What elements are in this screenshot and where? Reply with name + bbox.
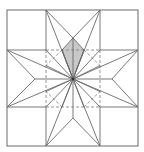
star-edge bbox=[73, 118, 100, 146]
star-crease-diagram bbox=[0, 0, 144, 152]
radial-line bbox=[73, 79, 100, 107]
radial-line bbox=[46, 79, 73, 107]
star-edge bbox=[46, 10, 73, 38]
star-edge bbox=[46, 118, 73, 146]
center-point bbox=[72, 78, 75, 81]
star-edge bbox=[112, 79, 138, 107]
star-edge bbox=[73, 10, 100, 38]
star-edge bbox=[112, 50, 138, 79]
star-edge bbox=[7, 79, 35, 107]
star-edge bbox=[7, 50, 35, 79]
